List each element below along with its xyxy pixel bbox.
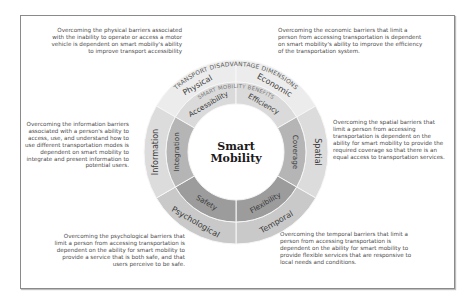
benefit-label-integration: Integration <box>172 132 181 172</box>
smart-mobility-wheel: PhysicalAccessibilityEconomicEfficiencyS… <box>0 0 472 305</box>
center-title-line2: Mobility <box>210 152 262 165</box>
benefit-label-coverage: Coverage <box>291 135 300 170</box>
dimension-label-information: Information <box>151 129 160 175</box>
dimension-label-spatial: Spatial <box>313 138 322 166</box>
